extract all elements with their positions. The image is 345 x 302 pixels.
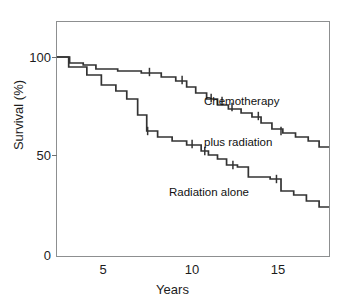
- survival-step-line: [57, 57, 329, 147]
- survival-chart-figure: 100 50 0 Survival (%) 5 10 15 Years Chem…: [0, 0, 345, 302]
- x-tick-5: 5: [88, 263, 118, 276]
- y-tick-50-mark: [52, 155, 57, 156]
- y-tick-0: 0: [0, 249, 51, 262]
- clipped-caption-text: [72, 0, 282, 10]
- series-label-chemotherapy-line1: Chemotherapy: [204, 95, 279, 109]
- x-tick-15: 15: [263, 263, 293, 276]
- series-radiation: [57, 57, 329, 207]
- series-chemotherapy: [57, 57, 329, 147]
- y-tick-100-mark: [52, 57, 57, 58]
- series-label-chemotherapy: Chemotherapy plus radiation: [204, 68, 279, 176]
- y-axis-label: Survival (%): [12, 65, 26, 165]
- y-tick-50-label: 50: [37, 149, 51, 162]
- series-label-chemotherapy-line2: plus radiation: [204, 136, 279, 150]
- y-tick-0-label: 0: [44, 249, 51, 262]
- survival-step-line: [57, 57, 329, 207]
- y-tick-100-label: 100: [29, 51, 51, 64]
- x-tick-10: 10: [177, 263, 207, 276]
- x-axis-label: Years: [0, 283, 345, 297]
- survival-curves: [56, 21, 330, 257]
- y-tick-100: 100: [0, 51, 51, 64]
- series-label-radiation: Radiation alone: [169, 186, 249, 200]
